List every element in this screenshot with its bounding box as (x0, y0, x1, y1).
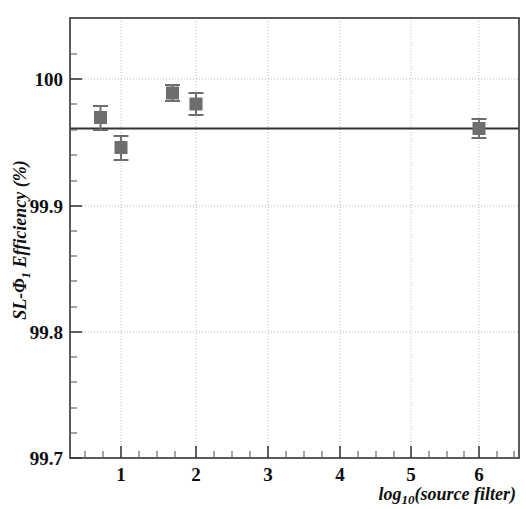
plot-background (70, 18, 519, 458)
y-tick-label-100: 100 (35, 69, 64, 90)
marker-2 (115, 141, 128, 154)
chart-figure: 100 99.9 99.8 99.7 1 2 3 4 5 6 SL-Φ1 Eff… (0, 0, 526, 509)
y-axis-title-lead: SL- (10, 293, 30, 320)
x-tick-label-6: 6 (474, 464, 484, 485)
y-tick-label-99-9: 99.9 (30, 196, 63, 217)
y-tick-label-99-8: 99.8 (30, 322, 63, 343)
marker-3 (166, 87, 179, 100)
marker-5 (473, 122, 486, 135)
y-axis-title: SL-Φ1 Efficiency (%) (10, 160, 33, 319)
y-axis-title-phi: Φ (10, 278, 30, 292)
marker-4 (190, 98, 203, 111)
x-tick-label-5: 5 (406, 464, 416, 485)
y-axis-title-tail: Efficiency (%) (10, 160, 31, 272)
data-point-3 (165, 85, 180, 101)
efficiency-scatter-plot: 100 99.9 99.8 99.7 1 2 3 4 5 6 SL-Φ1 Eff… (0, 0, 526, 509)
x-tick-label-3: 3 (263, 464, 273, 485)
marker-1 (94, 111, 107, 124)
x-tick-label-4: 4 (335, 464, 345, 485)
x-axis-title-lead: log (379, 484, 402, 504)
x-axis-title: log10(source filter) (379, 484, 517, 507)
x-axis-title-tail: (source filter) (415, 484, 516, 505)
x-tick-label-2: 2 (191, 464, 201, 485)
y-tick-label-99-7: 99.7 (30, 448, 64, 469)
x-tick-label-1: 1 (116, 464, 126, 485)
x-axis-title-sub: 10 (402, 492, 416, 507)
svg-text:SL-Φ1 Efficiency (%): SL-Φ1 Efficiency (%) (10, 160, 33, 319)
